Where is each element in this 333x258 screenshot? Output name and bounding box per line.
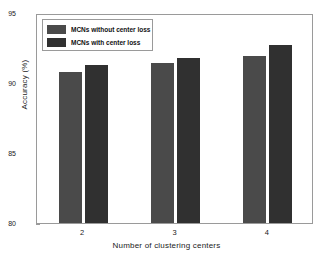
bar-chart-figure: Accuracy (%) 80859095234 MCNs without ce… <box>0 0 333 258</box>
bar-series-1-category-4 <box>269 45 292 223</box>
y-axis-tick-mark <box>36 224 40 225</box>
legend-swatch-series-0 <box>47 25 66 34</box>
x-axis-tick-label: 2 <box>62 228 102 237</box>
bar-series-0-category-4 <box>243 56 266 223</box>
bar-series-1-category-3 <box>177 58 200 223</box>
x-axis-title: Number of clustering centers <box>0 241 333 250</box>
bar-series-0-category-3 <box>151 63 174 223</box>
chart-legend: MCNs without center loss MCNs with cente… <box>42 19 153 51</box>
legend-item: MCNs with center loss <box>47 37 148 48</box>
y-axis-tick-label: 80 <box>0 220 16 227</box>
bar-series-0-category-2 <box>59 72 82 223</box>
y-axis-tick-label: 95 <box>0 10 16 17</box>
x-axis-tick-label: 4 <box>247 228 287 237</box>
bar-series-1-category-2 <box>85 65 108 223</box>
plot-area: MCNs without center loss MCNs with cente… <box>36 14 313 224</box>
legend-item: MCNs without center loss <box>47 24 148 35</box>
y-axis-title: Accuracy (%) <box>20 45 29 125</box>
y-axis-tick-label: 85 <box>0 150 16 157</box>
legend-label-series-0: MCNs without center loss <box>71 26 150 33</box>
x-axis-tick-label: 3 <box>155 228 195 237</box>
legend-label-series-1: MCNs with center loss <box>71 39 140 46</box>
y-axis-tick-label: 90 <box>0 80 16 87</box>
legend-swatch-series-1 <box>47 38 66 47</box>
